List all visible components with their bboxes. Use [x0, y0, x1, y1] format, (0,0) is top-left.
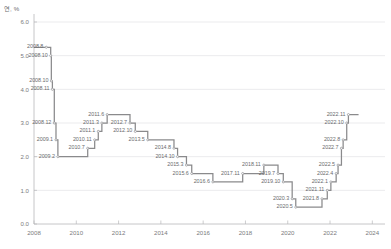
- data-point-label: 2013.5: [129, 137, 145, 142]
- data-point-label: 2017.11: [221, 171, 240, 176]
- data-point-label: 2022.11: [327, 112, 346, 117]
- data-point-label: 2022.8: [324, 137, 340, 142]
- data-point-label: 2016.6: [194, 179, 210, 184]
- svg-text:2014: 2014: [154, 229, 168, 236]
- data-point-label: 2011.6: [88, 112, 104, 117]
- data-point-label: 2021.8: [303, 196, 319, 201]
- svg-text:0.0: 0.0: [21, 220, 30, 227]
- data-point-label: 2011.3: [83, 120, 99, 125]
- data-point-label: 2014.10: [155, 154, 174, 159]
- data-point-label: 2012.10: [113, 129, 132, 134]
- data-point-label: 2008.12: [32, 120, 51, 125]
- data-point-label: 2010.11: [73, 137, 92, 142]
- data-point-label: 2022.5: [319, 162, 335, 167]
- x-tick-labels: 200820102012201420162018202020222024: [27, 221, 379, 237]
- data-point-label: 2019.10: [261, 179, 280, 184]
- data-point-label: 2010.7: [69, 146, 85, 151]
- data-point-label: 2022.1: [312, 179, 328, 184]
- data-point-label: 2022.7: [322, 146, 338, 151]
- svg-text:2020: 2020: [281, 229, 295, 236]
- data-point-label: 2014.8: [155, 146, 171, 151]
- data-point-label: 2020.3: [273, 196, 289, 201]
- svg-text:3.0: 3.0: [21, 119, 30, 126]
- data-point-label: 2011.1: [79, 129, 95, 134]
- data-point-label: 2019.7: [259, 171, 275, 176]
- svg-text:2010: 2010: [70, 229, 84, 236]
- data-point-label: 2020.5: [277, 204, 293, 209]
- data-point-label: 2008.10: [29, 53, 48, 58]
- data-point-label: 2021.11: [306, 188, 325, 193]
- data-point-label: 2015.3: [167, 162, 183, 167]
- data-point-label: 2018.11: [242, 162, 261, 167]
- svg-text:2008: 2008: [27, 229, 41, 236]
- data-point-label: 2009.1: [37, 137, 53, 142]
- data-point-label: 2012.7: [111, 120, 127, 125]
- svg-text:1.0: 1.0: [21, 187, 30, 194]
- axis-unit-label: 연, %: [4, 4, 19, 13]
- data-point-label: 2008.8: [27, 45, 43, 50]
- data-point-label: 2009.2: [39, 154, 55, 159]
- data-point-label: 2022.4: [317, 171, 333, 176]
- svg-text:2.0: 2.0: [21, 153, 30, 160]
- data-point-label: 2015.6: [173, 171, 189, 176]
- svg-text:6.0: 6.0: [21, 18, 30, 25]
- svg-text:2012: 2012: [112, 229, 126, 236]
- data-point-label: 2008.10: [29, 78, 48, 83]
- data-point-label: 2008.11: [31, 87, 50, 92]
- svg-text:2022: 2022: [323, 229, 337, 236]
- data-point-label: 2022.10: [325, 120, 344, 125]
- rate-step-chart: 연, % 0.01.02.03.04.05.06.0 2008201020122…: [0, 0, 391, 249]
- svg-text:2016: 2016: [196, 229, 210, 236]
- svg-text:2018: 2018: [239, 229, 253, 236]
- svg-text:4.0: 4.0: [21, 86, 30, 93]
- svg-text:2024: 2024: [366, 229, 380, 236]
